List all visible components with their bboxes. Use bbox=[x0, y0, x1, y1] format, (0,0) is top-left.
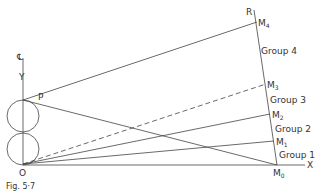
line-o-m2 bbox=[23, 114, 270, 164]
group-1-label: Group 1 bbox=[279, 150, 315, 160]
point-o-label: O bbox=[19, 168, 26, 178]
line-o-m1 bbox=[23, 141, 274, 164]
point-m2-label: M2 bbox=[272, 110, 284, 121]
centerline-symbol: ℄ bbox=[16, 52, 23, 62]
point-m1-label: M1 bbox=[276, 137, 288, 148]
line-o-m3-dashed bbox=[23, 84, 266, 164]
point-m3-label: M3 bbox=[267, 80, 279, 91]
y-axis-label: Y bbox=[18, 72, 25, 82]
group-3-label: Group 3 bbox=[270, 95, 306, 105]
group-2-label: Group 2 bbox=[275, 124, 311, 134]
point-m4-label: M4 bbox=[258, 18, 270, 29]
gear-geometry-diagram: ℄ Y P O Fig. 5·7 R M4 Group 4 M3 Group 3… bbox=[0, 0, 325, 194]
line-p-m0 bbox=[23, 100, 277, 165]
point-m0-label: M0 bbox=[273, 168, 285, 179]
line-p-m4 bbox=[23, 22, 257, 100]
point-p-label: P bbox=[38, 92, 44, 102]
group-4-label: Group 4 bbox=[261, 46, 297, 56]
r-label: R bbox=[246, 7, 252, 17]
x-axis-label: X bbox=[307, 160, 313, 170]
figure-caption: Fig. 5·7 bbox=[6, 182, 35, 191]
